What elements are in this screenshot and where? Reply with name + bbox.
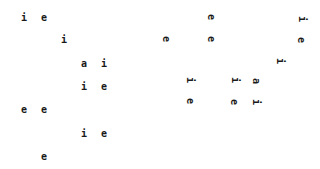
- glyph-rotated: e: [161, 35, 171, 43]
- glyph-rotated: e: [296, 36, 306, 44]
- glyph-rotated: i: [230, 76, 240, 84]
- glyph-upright: i: [80, 129, 88, 139]
- glyph-rotated: i: [185, 76, 195, 84]
- glyph-upright: e: [40, 13, 48, 23]
- glyph-upright: e: [100, 129, 108, 139]
- glyph-upright: e: [40, 152, 48, 162]
- glyph-upright: i: [80, 82, 88, 92]
- glyph-upright: a: [80, 59, 88, 69]
- glyph-upright: i: [100, 59, 108, 69]
- glyph-canvas: i e i a i i e e e i e e e i e e e i i i …: [0, 0, 320, 169]
- glyph-upright: e: [100, 82, 108, 92]
- glyph-rotated: i: [297, 15, 307, 23]
- glyph-rotated: i: [251, 98, 261, 106]
- glyph-rotated: a: [251, 77, 261, 85]
- glyph-rotated: e: [206, 13, 216, 21]
- glyph-upright: e: [40, 105, 48, 115]
- glyph-rotated: e: [185, 97, 195, 105]
- glyph-rotated: i: [275, 57, 285, 65]
- glyph-rotated: e: [206, 35, 216, 43]
- glyph-upright: i: [60, 35, 68, 45]
- glyph-upright: e: [20, 105, 28, 115]
- glyph-upright: i: [20, 13, 28, 23]
- glyph-rotated: e: [229, 98, 239, 106]
